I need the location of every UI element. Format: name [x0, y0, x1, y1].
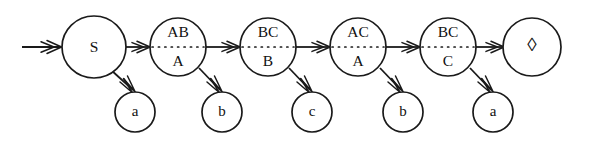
output-node-a-label: a [132, 103, 139, 119]
state-s-label: S [90, 38, 99, 55]
output-node-a[interactable]: a [115, 92, 155, 132]
state-final-empty[interactable]: ◊ [503, 18, 561, 76]
empty-stack-diamond-icon: ◊ [527, 34, 537, 55]
automaton-canvas: S AB A BC B AC A BC C ◊ [0, 0, 589, 149]
output-node-c-label: c [309, 103, 316, 119]
state-ab-a-top-label: AB [167, 23, 189, 40]
state-ab-a[interactable]: AB A [150, 18, 206, 76]
state-bc-b-bottom-label: B [263, 52, 273, 69]
state-bc-b[interactable]: BC B [240, 18, 296, 76]
output-node-b[interactable]: b [202, 92, 242, 132]
transition-ac-to-bc [386, 41, 420, 53]
output-node-c[interactable]: c [292, 92, 332, 132]
state-bc-c[interactable]: BC C [420, 18, 476, 76]
transition-s-to-ab [125, 41, 150, 53]
output-edge-b-2 [380, 68, 403, 93]
start-arrow [22, 41, 62, 54]
transition-bc-to-ac [296, 41, 330, 53]
state-s[interactable]: S [62, 16, 126, 78]
output-edge-a-2 [470, 68, 493, 93]
output-node-b-label: b [218, 103, 226, 119]
output-edge-a [111, 70, 135, 93]
state-ac-a[interactable]: AC A [330, 18, 386, 76]
output-edge-c [289, 68, 312, 93]
output-node-b-2[interactable]: b [383, 92, 423, 132]
state-ac-a-bottom-label: A [352, 52, 364, 69]
output-node-a-2[interactable]: a [473, 92, 513, 132]
output-node-a-2-label: a [490, 103, 497, 119]
state-bc-c-bottom-label: C [443, 52, 453, 69]
automaton-diagram: S AB A BC B AC A BC C ◊ [0, 0, 589, 149]
output-node-b-2-label: b [399, 103, 407, 119]
state-bc-c-top-label: BC [438, 23, 459, 40]
state-ab-a-bottom-label: A [172, 52, 184, 69]
transition-ab-to-bc [206, 41, 240, 53]
output-edge-b [199, 68, 222, 93]
state-bc-b-top-label: BC [258, 23, 279, 40]
state-ac-a-top-label: AC [347, 23, 369, 40]
transition-bc-to-final [476, 41, 504, 53]
